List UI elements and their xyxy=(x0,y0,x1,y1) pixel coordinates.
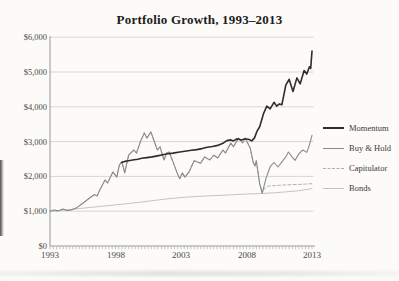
series-line-buy-hold xyxy=(50,132,312,211)
y-axis-tick-label: $2,000 xyxy=(4,171,47,181)
series-line-capitulator xyxy=(50,132,312,211)
legend-item-momentum: Momentum xyxy=(323,118,391,138)
x-axis-tick-label: 1998 xyxy=(99,250,133,260)
legend-label: Bonds xyxy=(349,183,371,193)
scan-smudge-bottom xyxy=(0,271,399,276)
chart-legend: Momentum Buy & Hold Capitulator Bonds xyxy=(323,118,391,198)
legend-label: Buy & Hold xyxy=(349,143,391,153)
series-line-bonds xyxy=(50,189,312,212)
bonds-line-swatch-icon xyxy=(323,188,344,189)
y-axis-tick-label: $4,000 xyxy=(4,102,47,112)
x-axis-tick-label: 2013 xyxy=(295,250,329,260)
legend-item-capitulator: Capitulator xyxy=(323,158,391,178)
legend-item-buy-hold: Buy & Hold xyxy=(323,138,391,158)
scan-smudge-left xyxy=(0,160,4,236)
legend-label: Momentum xyxy=(349,123,389,133)
legend-label: Capitulator xyxy=(349,163,387,173)
x-axis-tick-label: 1993 xyxy=(33,250,67,260)
y-axis-tick-label: $5,000 xyxy=(4,67,47,77)
book-page: Portfolio Growth, 1993–2013 $6,000 $5,00… xyxy=(0,0,399,281)
y-axis-tick-label: $6,000 xyxy=(4,32,47,42)
buy-hold-line-swatch-icon xyxy=(323,148,344,149)
x-axis-tick-label: 2008 xyxy=(230,250,264,260)
legend-item-bonds: Bonds xyxy=(323,178,391,198)
momentum-line-swatch-icon xyxy=(323,127,344,129)
y-axis-tick-label: $3,000 xyxy=(4,137,47,147)
capitulator-line-swatch-icon xyxy=(323,168,344,169)
x-axis-tick-label: 2003 xyxy=(164,250,198,260)
y-axis-tick-label: $1,000 xyxy=(4,206,47,216)
